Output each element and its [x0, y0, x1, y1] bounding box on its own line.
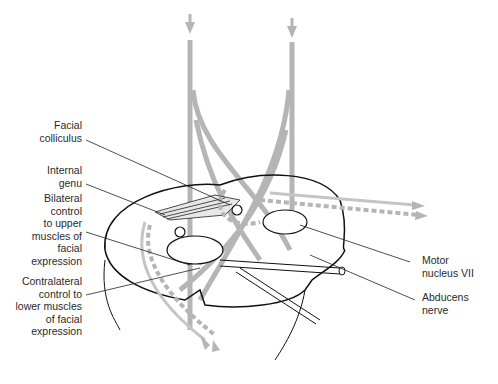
motor-nucleus-right	[263, 210, 307, 234]
label-contralateral-control: Contralateral control to lower muscles o…	[0, 275, 82, 338]
leader-lines	[86, 140, 415, 300]
label-abducens-nerve: Abducens nerve	[422, 291, 498, 316]
motor-nucleus-left	[167, 236, 223, 264]
label-internal-genu: Internal genu	[10, 164, 82, 189]
facial-colliculus-hatch	[155, 195, 240, 220]
label-facial-colliculus: Facial colliculus	[10, 119, 82, 144]
label-motor-nucleus: Motor nucleus VII	[422, 254, 498, 279]
arrow-down-icon	[185, 14, 297, 38]
label-bilateral-control: Bilateral control to upper muscles of fa…	[10, 192, 82, 267]
